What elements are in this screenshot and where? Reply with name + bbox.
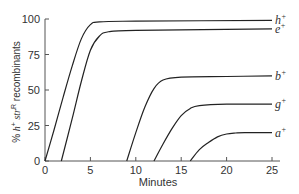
series-label-a: a+ (275, 125, 286, 140)
y-tick-label: 50 (28, 84, 40, 96)
x-tick-label: 5 (87, 164, 93, 176)
x-axis-label: Minutes (139, 176, 178, 188)
chart: 05101520250255075100 h+e+b+g+a+ Minutes … (0, 0, 299, 194)
x-tick-label: 25 (266, 164, 278, 176)
series-label-e: e+ (275, 21, 286, 36)
x-tick-label: 0 (42, 164, 48, 176)
series-line-e (61, 29, 272, 161)
series-line-a (190, 133, 272, 161)
series-label-g: g+ (275, 96, 286, 111)
data-lines (45, 20, 272, 161)
x-tick-label: 20 (220, 164, 232, 176)
series-labels: h+e+b+g+a+ (275, 12, 286, 139)
y-tick-label: 75 (28, 49, 40, 61)
y-tick-label: 100 (22, 13, 40, 25)
y-tick-label: 0 (34, 155, 40, 167)
series-line-b (127, 76, 272, 161)
y-axis-label: % h+ strR recombinants (10, 41, 22, 143)
series-label-b: b+ (275, 68, 286, 83)
y-tick-label: 25 (28, 120, 40, 132)
x-tick-label: 15 (175, 164, 187, 176)
x-tick-label: 10 (130, 164, 142, 176)
